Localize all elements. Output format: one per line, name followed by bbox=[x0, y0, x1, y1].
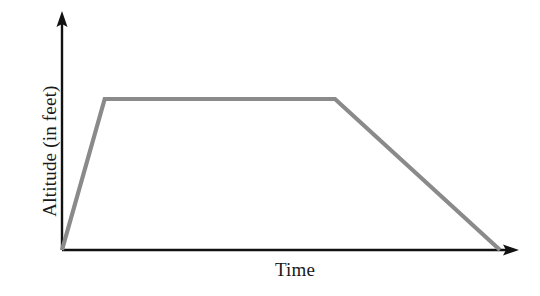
y-axis-label: Altitude (in feet) bbox=[40, 51, 59, 251]
chart-canvas bbox=[0, 0, 540, 296]
altitude-series-line bbox=[62, 99, 500, 250]
altitude-time-line-chart: Altitude (in feet) Time bbox=[0, 0, 540, 296]
x-axis-label: Time bbox=[195, 260, 395, 279]
